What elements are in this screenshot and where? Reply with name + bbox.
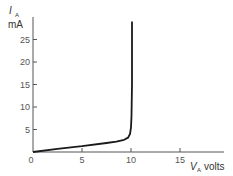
y-tick-label: 15 xyxy=(20,80,30,90)
x-tick-label: 0 xyxy=(28,155,33,165)
data-curve xyxy=(33,22,132,153)
chart: 051015510152025 IAmAVAvolts xyxy=(0,0,233,176)
axis-labels: IAmAVAvolts xyxy=(8,5,225,173)
x-tick-label: 5 xyxy=(79,155,84,165)
y-axis-label: I xyxy=(9,5,12,16)
series-line xyxy=(33,22,132,153)
x-axis-unit: volts xyxy=(204,161,225,172)
x-tick-label: 10 xyxy=(126,155,136,165)
y-axis-label-sub: A xyxy=(15,12,19,18)
y-axis-unit: mA xyxy=(8,19,23,30)
x-axis-label-sub: A xyxy=(197,167,201,173)
x-tick-label: 15 xyxy=(175,155,185,165)
ticks: 051015510152025 xyxy=(20,35,185,166)
y-tick-label: 25 xyxy=(20,35,30,45)
axes xyxy=(33,17,224,152)
y-tick-label: 20 xyxy=(20,57,30,67)
y-tick-label: 5 xyxy=(25,125,30,135)
y-tick-label: 10 xyxy=(20,102,30,112)
